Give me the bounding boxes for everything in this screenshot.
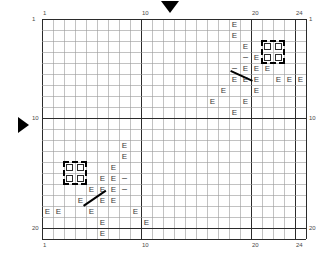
axis-label-left: 10 xyxy=(32,115,39,122)
cell-marker-e[interactable]: E xyxy=(108,162,119,173)
cell-marker-e[interactable]: E xyxy=(251,63,262,74)
cell-marker-e[interactable]: E xyxy=(295,74,306,85)
axis-label-top: 1 xyxy=(43,10,46,17)
square-node[interactable] xyxy=(264,43,271,50)
square-node[interactable] xyxy=(77,175,84,182)
cell-marker-e[interactable]: E xyxy=(97,217,108,228)
cell-marker-e[interactable]: E xyxy=(251,85,262,96)
axis-label-top: 20 xyxy=(252,10,259,17)
axis-label-top: 24 xyxy=(296,10,303,17)
cell-marker-e[interactable]: E xyxy=(229,107,240,118)
cell-marker-dash[interactable]: – xyxy=(240,52,251,63)
cell-marker-e[interactable]: E xyxy=(108,195,119,206)
cell-marker-e[interactable]: E xyxy=(229,19,240,30)
triangle-right-icon[interactable] xyxy=(18,117,29,133)
cell-marker-e[interactable]: E xyxy=(141,217,152,228)
cell-marker-e[interactable]: E xyxy=(97,173,108,184)
cell-marker-e[interactable]: E xyxy=(42,206,53,217)
square-node[interactable] xyxy=(66,164,73,171)
cell-marker-e[interactable]: E xyxy=(119,151,130,162)
axis-label-top: 10 xyxy=(142,10,149,17)
cell-marker-e[interactable]: E xyxy=(229,30,240,41)
square-node[interactable] xyxy=(77,164,84,171)
cell-marker-e[interactable]: E xyxy=(108,184,119,195)
cell-marker-e[interactable]: E xyxy=(240,96,251,107)
axis-label-left: 1 xyxy=(32,16,35,23)
axis-label-left: 20 xyxy=(32,225,39,232)
cell-marker-e[interactable]: E xyxy=(97,228,108,239)
cell-marker-e[interactable]: E xyxy=(53,206,64,217)
cell-marker-dash[interactable]: – xyxy=(119,184,130,195)
cell-marker-e[interactable]: E xyxy=(86,184,97,195)
cell-marker-e[interactable]: E xyxy=(273,74,284,85)
cell-marker-e[interactable]: E xyxy=(284,74,295,85)
square-node[interactable] xyxy=(264,54,271,61)
axis-label-right: 1 xyxy=(309,16,312,23)
cell-marker-e[interactable]: E xyxy=(207,96,218,107)
triangle-down-icon[interactable] xyxy=(161,1,179,13)
axis-label-bottom: 20 xyxy=(252,242,259,249)
cell-marker-dash[interactable]: – xyxy=(119,173,130,184)
cell-marker-e[interactable]: E xyxy=(130,206,141,217)
axis-label-right: 20 xyxy=(309,225,316,232)
cell-marker-e[interactable]: E xyxy=(251,52,262,63)
square-node[interactable] xyxy=(275,43,282,50)
cell-marker-e[interactable]: E xyxy=(108,173,119,184)
cell-marker-e[interactable]: E xyxy=(218,85,229,96)
square-node[interactable] xyxy=(66,175,73,182)
axis-label-right: 10 xyxy=(309,115,316,122)
cell-marker-e[interactable]: E xyxy=(86,206,97,217)
axis-label-bottom: 10 xyxy=(142,242,149,249)
cell-marker-e[interactable]: E xyxy=(119,140,130,151)
diagram-canvas: 110202411020241102011020 EEE–E–EEEEEEEEE… xyxy=(0,0,331,264)
cell-marker-e[interactable]: E xyxy=(262,63,273,74)
axis-label-bottom: 24 xyxy=(296,242,303,249)
cell-marker-e[interactable]: E xyxy=(240,41,251,52)
square-node[interactable] xyxy=(275,54,282,61)
cell-marker-e[interactable]: E xyxy=(240,63,251,74)
axis-label-bottom: 1 xyxy=(43,242,46,249)
